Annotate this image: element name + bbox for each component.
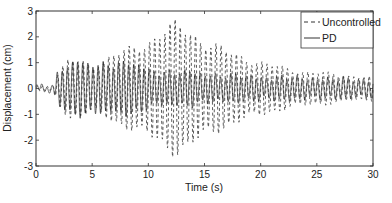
- legend-label-pd: PD: [322, 32, 337, 44]
- y-tick-label: -1: [24, 109, 33, 120]
- x-tick-label: 20: [255, 169, 267, 180]
- y-tick-label: -2: [24, 135, 33, 146]
- y-tick-label: 0: [27, 83, 33, 94]
- y-tick-label: 2: [27, 31, 33, 42]
- y-axis-label: Displacement (cm): [1, 44, 13, 132]
- x-tick-label: 30: [367, 169, 379, 180]
- x-tick-label: 0: [33, 169, 39, 180]
- x-axis-label: Time (s): [185, 181, 223, 193]
- legend: Uncontrolled PD: [301, 12, 381, 48]
- displacement-chart: 051015202530-3-2-10123 Time (s) Displace…: [0, 0, 392, 203]
- y-tick-label: 3: [27, 6, 33, 17]
- y-tick-label: -3: [24, 161, 33, 172]
- legend-label-uncontrolled: Uncontrolled: [322, 16, 381, 28]
- y-tick-label: 1: [27, 57, 33, 68]
- x-tick-label: 15: [199, 169, 211, 180]
- x-tick-label: 5: [89, 169, 95, 180]
- x-tick-label: 10: [143, 169, 155, 180]
- x-tick-label: 25: [311, 169, 323, 180]
